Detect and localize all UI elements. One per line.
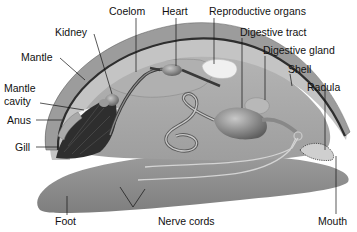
- kidney-lobe: [99, 99, 109, 107]
- label-foot: Foot: [55, 216, 76, 227]
- label-kidney: Kidney: [55, 27, 87, 38]
- label-gill: Gill: [15, 142, 30, 153]
- label-shell: Shell: [288, 64, 311, 75]
- label-digestive-tract: Digestive tract: [240, 27, 307, 38]
- label-reproductive-organs: Reproductive organs: [209, 6, 306, 17]
- heart-shape: [162, 64, 182, 76]
- mollusc-diagram: Coelom Heart Reproductive organs Kidney …: [0, 0, 357, 232]
- label-anus: Anus: [7, 115, 31, 126]
- label-coelom: Coelom: [109, 6, 145, 17]
- label-mantle: Mantle: [21, 52, 53, 63]
- label-radula: Radula: [307, 82, 340, 93]
- label-heart: Heart: [162, 6, 188, 17]
- label-mantle-cavity-line2: cavity: [4, 96, 31, 107]
- label-nerve-cords: Nerve cords: [158, 216, 215, 227]
- label-mantle-cavity-line1: Mantle: [4, 83, 36, 94]
- radula-shape: [300, 143, 334, 160]
- foot-shape: [37, 154, 348, 213]
- label-digestive-gland: Digestive gland: [263, 45, 335, 56]
- label-mouth: Mouth: [318, 216, 347, 227]
